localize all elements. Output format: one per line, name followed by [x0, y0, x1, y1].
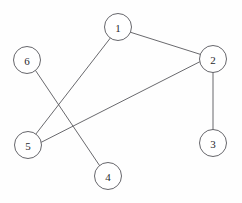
graph-node-label-4: 4 — [105, 171, 111, 183]
graph-figure: 123456 — [0, 0, 242, 203]
graph-edge-4-6 — [36, 71, 100, 166]
graph-svg-canvas: 123456 — [0, 0, 242, 203]
graph-node-label-6: 6 — [24, 55, 30, 67]
graph-node-2[interactable]: 2 — [200, 46, 227, 73]
graph-edge-1-2 — [130, 32, 201, 54]
graph-node-6[interactable]: 6 — [14, 47, 41, 74]
graph-node-3[interactable]: 3 — [200, 130, 227, 157]
graph-node-label-2: 2 — [210, 54, 216, 66]
graph-node-5[interactable]: 5 — [15, 132, 42, 159]
graph-node-label-3: 3 — [210, 138, 216, 150]
graph-edge-1-5 — [36, 38, 110, 134]
graph-node-4[interactable]: 4 — [95, 163, 122, 190]
graph-node-1[interactable]: 1 — [105, 14, 132, 41]
node-layer: 123456 — [14, 14, 227, 190]
graph-node-label-5: 5 — [25, 140, 31, 152]
edge-layer — [36, 32, 213, 165]
graph-edge-2-5 — [41, 62, 199, 142]
graph-node-label-1: 1 — [115, 22, 121, 34]
